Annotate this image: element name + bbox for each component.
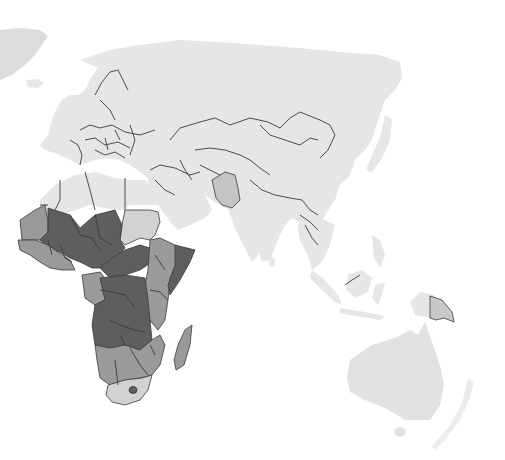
world-choropleth-map [0, 0, 505, 460]
borneo [346, 270, 372, 298]
sri-lanka [269, 257, 275, 267]
iceland [26, 79, 44, 88]
mauritania [20, 205, 48, 240]
sumatra [310, 270, 342, 305]
java [340, 308, 385, 320]
philippines [372, 235, 385, 268]
madagascar [174, 325, 192, 370]
lesotho [129, 387, 137, 394]
australia [347, 322, 444, 420]
sulawesi [372, 282, 385, 305]
southeast-asia [298, 215, 335, 270]
papua-new-guinea [430, 296, 454, 322]
tasmania [394, 427, 406, 437]
greenland [0, 28, 48, 80]
